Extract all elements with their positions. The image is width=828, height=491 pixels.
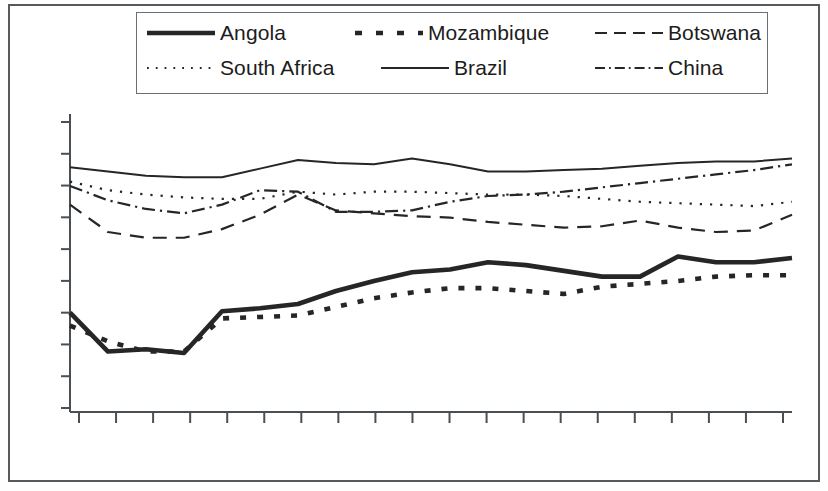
legend-entry-china[interactable]: China (593, 51, 723, 85)
legend-row-bottom: South Africa Brazil China (137, 51, 769, 85)
legend-entry-angola[interactable]: Angola (145, 16, 286, 50)
series-line-angola (70, 256, 792, 352)
legend-label-botswana: Botswana (665, 22, 761, 44)
legend-label-mozambique: Mozambique (425, 22, 549, 44)
mozambique-line-sample (353, 25, 425, 41)
series-line-botswana (70, 195, 792, 238)
legend-label-south-africa: South Africa (217, 57, 334, 79)
series-line-brazil (70, 159, 792, 178)
legend-entry-mozambique[interactable]: Mozambique (353, 16, 549, 50)
legend-entry-south-africa[interactable]: South Africa (145, 51, 334, 85)
legend-label-brazil: Brazil (451, 57, 507, 79)
chart-figure: Angola Mozambique Botswana (0, 0, 828, 491)
south-africa-line-sample (145, 60, 217, 76)
series-line-south-africa (70, 182, 792, 206)
legend-entry-brazil[interactable]: Brazil (379, 51, 507, 85)
legend-label-china: China (665, 57, 723, 79)
legend-label-angola: Angola (217, 22, 286, 44)
botswana-line-sample (593, 25, 665, 41)
angola-line-sample (145, 25, 217, 41)
figure-border: Angola Mozambique Botswana (8, 4, 820, 482)
series-line-china (70, 164, 792, 213)
china-line-sample (593, 60, 665, 76)
legend: Angola Mozambique Botswana (136, 12, 768, 94)
brazil-line-sample (379, 60, 451, 76)
series-lines (70, 159, 792, 353)
series-line-mozambique (70, 275, 792, 351)
legend-entry-botswana[interactable]: Botswana (593, 16, 761, 50)
legend-row-top: Angola Mozambique Botswana (137, 16, 769, 50)
